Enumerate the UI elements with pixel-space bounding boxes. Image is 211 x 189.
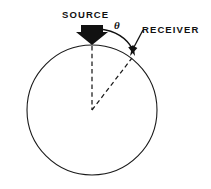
receiver-pointer [130,30,143,56]
dashed-radius-to-receiver [92,58,132,110]
angle-label: θ [114,19,120,31]
source-label: SOURCE [62,9,109,20]
receiver-label: RECEIVER [142,24,199,35]
diagram-canvas: SOURCE θ RECEIVER [0,0,211,189]
source-arrow [76,25,108,45]
